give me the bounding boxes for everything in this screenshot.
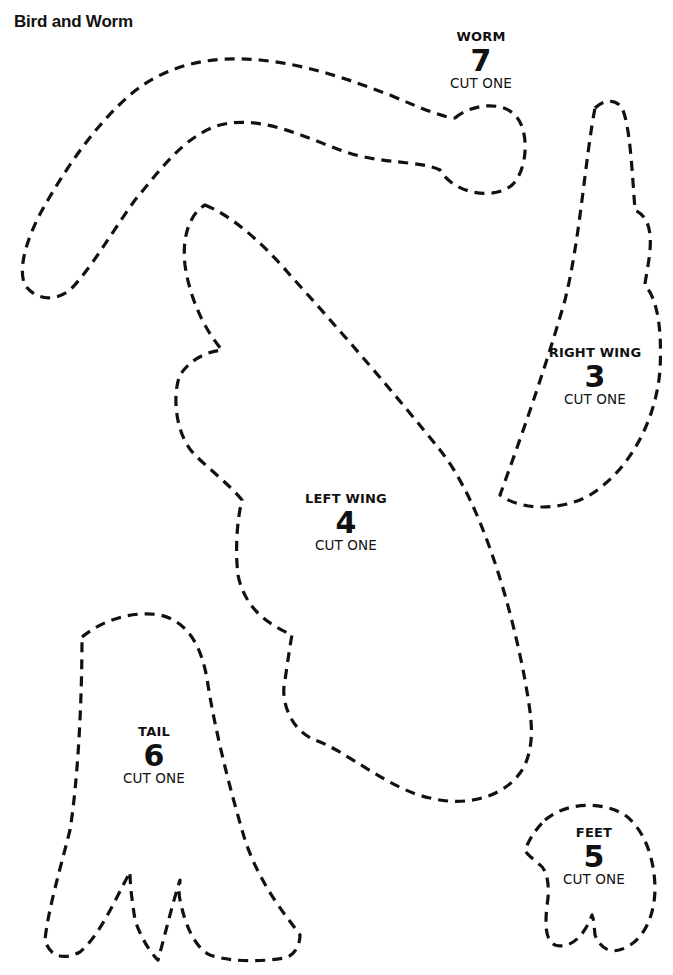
piece-number: 4 bbox=[305, 508, 387, 538]
right-wing-label: RIGHT WING 3 CUT ONE bbox=[549, 346, 642, 407]
worm-outline bbox=[22, 59, 525, 298]
tail-outline bbox=[45, 614, 300, 961]
worm-label: WORM 7 CUT ONE bbox=[450, 30, 512, 91]
tail-label: TAIL 6 CUT ONE bbox=[123, 725, 185, 786]
piece-name: RIGHT WING bbox=[549, 346, 642, 359]
piece-number: 7 bbox=[450, 46, 512, 76]
piece-instruction: CUT ONE bbox=[549, 393, 642, 407]
feet-label: FEET 5 CUT ONE bbox=[563, 826, 625, 887]
piece-number: 6 bbox=[123, 741, 185, 771]
piece-instruction: CUT ONE bbox=[563, 873, 625, 887]
piece-name: TAIL bbox=[123, 725, 185, 738]
piece-name: WORM bbox=[450, 30, 512, 43]
right-wing-outline bbox=[500, 101, 660, 507]
piece-name: FEET bbox=[563, 826, 625, 839]
left-wing-label: LEFT WING 4 CUT ONE bbox=[305, 492, 387, 553]
piece-instruction: CUT ONE bbox=[305, 539, 387, 553]
piece-name: LEFT WING bbox=[305, 492, 387, 505]
piece-instruction: CUT ONE bbox=[450, 77, 512, 91]
piece-number: 3 bbox=[549, 362, 642, 392]
piece-instruction: CUT ONE bbox=[123, 772, 185, 786]
piece-number: 5 bbox=[563, 842, 625, 872]
